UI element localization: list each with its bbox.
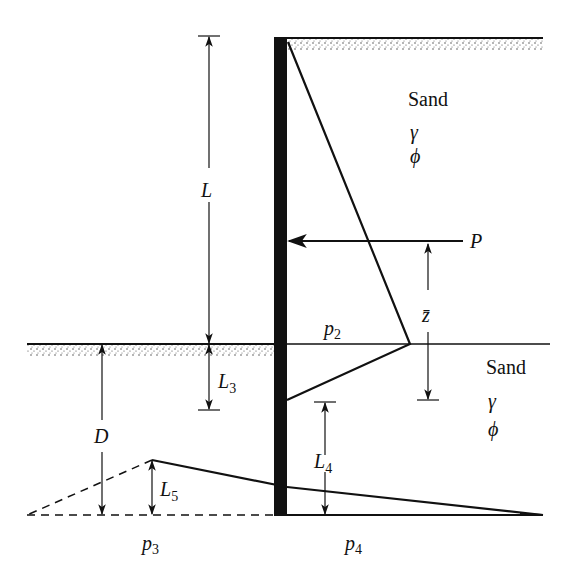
dimension-l-label: L (200, 179, 212, 201)
pressure-diagram (152, 42, 543, 515)
sheet-pile-diagram: Sand γ ϕ Sand γ ϕ P L L3 D L5 L4 z̄ p2 p… (0, 0, 575, 572)
dimension-l3-label: L3 (217, 370, 236, 396)
lower-phi-label: ϕ (488, 418, 498, 441)
dimension-l4-label: L4 (313, 450, 332, 476)
dimension-z-bar-label: z̄ (421, 304, 430, 326)
lower-material-label: Sand (486, 356, 526, 378)
sheet-pile-wall (274, 37, 287, 516)
ground-surface-top (287, 38, 543, 50)
upper-phi-label: ϕ (410, 145, 420, 168)
force-p-label: P (469, 230, 482, 252)
pressure-p4-label: p4 (343, 532, 362, 557)
pressure-diagram-dashed (27, 460, 274, 515)
pressure-p3-label: p3 (140, 532, 159, 557)
upper-material-label: Sand (408, 88, 448, 110)
upper-gamma-label: γ (410, 121, 419, 144)
lower-gamma-label: γ (488, 390, 497, 413)
dredge-line-left (27, 344, 274, 356)
dimension-d-label: D (93, 425, 109, 447)
pressure-p2-label: p2 (322, 317, 341, 342)
dimension-l5-label: L5 (159, 478, 178, 504)
